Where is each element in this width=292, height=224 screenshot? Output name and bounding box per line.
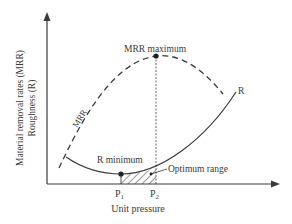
mrr-curve-label: MRR	[70, 107, 89, 129]
diagram: MRR maximum R minimum Optimum range R MR…	[0, 0, 292, 224]
r-curve-label: R	[238, 86, 245, 96]
y-axis-title-line1: Material removal rates (MRR)	[15, 50, 26, 166]
y-axis-arrow-icon	[44, 12, 51, 21]
optimum-range-label: Optimum range	[168, 164, 228, 174]
y-axis-title-line2: Roughness (R)	[27, 80, 38, 137]
mrr-maximum-point	[153, 53, 158, 58]
p1-tick-label: P1	[115, 188, 125, 201]
optimum-leader-dot	[150, 173, 153, 176]
r-curve	[66, 92, 236, 174]
r-minimum-label: R minimum	[97, 155, 143, 165]
r-minimum-point	[118, 171, 123, 176]
x-axis-title: Unit pressure	[111, 203, 165, 214]
mrr-maximum-label: MRR maximum	[124, 44, 187, 54]
p2-tick-label: P2	[150, 188, 160, 201]
x-axis-arrow-icon	[271, 181, 280, 188]
